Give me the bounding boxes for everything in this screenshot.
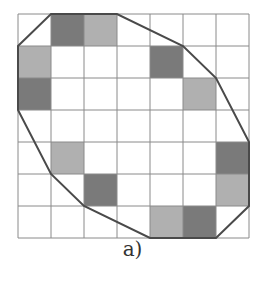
shaded-cell-light [18,46,51,78]
convex-polygon [18,14,249,238]
shaded-cell-dark [150,46,183,78]
shaded-cell-light [150,206,183,238]
shaded-cell-dark [51,14,84,46]
shaded-cell-dark [183,206,216,238]
shaded-cell-light [51,142,84,174]
shaded-cells [18,14,249,238]
shaded-cell-dark [84,174,117,206]
shaded-cell-dark [18,78,51,110]
shaded-cell-dark [216,142,249,174]
shaded-cell-light [183,78,216,110]
grid-lines [18,14,249,238]
grid-diagram [0,0,265,240]
shaded-cell-light [84,14,117,46]
shaded-cell-light [216,174,249,206]
figure-caption: a) [0,237,265,261]
